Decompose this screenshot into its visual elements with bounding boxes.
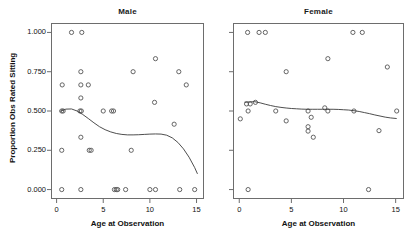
data-point [284, 70, 288, 74]
data-point [238, 117, 242, 121]
data-point [274, 109, 278, 113]
data-point [184, 83, 188, 87]
data-point [326, 57, 330, 61]
data-point [311, 135, 315, 139]
data-point [284, 119, 288, 123]
x-tick-label: 15 [185, 205, 209, 214]
y-tick-label: 0.750 [8, 67, 46, 76]
data-point [306, 129, 310, 133]
data-point [60, 187, 64, 191]
x-tick-label: 15 [384, 205, 408, 214]
data-point [257, 30, 261, 34]
x-axis-title-male: Age at Observation [51, 219, 204, 228]
data-point [246, 187, 250, 191]
data-point [172, 122, 176, 126]
plot-canvas [0, 0, 418, 238]
data-point [385, 65, 389, 69]
data-point [60, 148, 64, 152]
smooth-trend-line [60, 109, 197, 174]
data-point [129, 148, 133, 152]
data-point [153, 57, 157, 61]
chart-figure: Male Female Proportion Obs Rated Sitting… [0, 0, 418, 238]
data-point [366, 187, 370, 191]
data-point [360, 30, 364, 34]
y-tick-label: 0.250 [8, 145, 46, 154]
data-point [80, 30, 84, 34]
data-point [177, 70, 181, 74]
data-point [351, 30, 355, 34]
data-point [395, 109, 399, 113]
x-tick-label: 10 [332, 205, 356, 214]
data-point [69, 30, 73, 34]
x-tick-label: 10 [138, 205, 162, 214]
data-point [309, 115, 313, 119]
x-tick-label: 5 [279, 205, 303, 214]
data-point [152, 100, 156, 104]
data-point [377, 129, 381, 133]
x-axis-title-female: Age at Observation [233, 219, 404, 228]
data-point [86, 83, 90, 87]
data-point [79, 187, 83, 191]
series-female [238, 30, 399, 191]
data-point [246, 109, 250, 113]
data-point [148, 187, 152, 191]
data-point [79, 135, 83, 139]
data-point [263, 30, 267, 34]
data-point [79, 96, 83, 100]
data-point [101, 109, 105, 113]
smooth-trend-line [244, 102, 396, 119]
data-point [79, 70, 83, 74]
data-point [306, 125, 310, 129]
data-point [124, 187, 128, 191]
data-point [193, 187, 197, 191]
y-tick-label: 0.500 [8, 106, 46, 115]
series-male [60, 30, 198, 191]
y-tick-label: 1.000 [8, 27, 46, 36]
x-tick-label: 0 [227, 205, 251, 214]
data-point [79, 83, 83, 87]
data-point [178, 187, 182, 191]
data-point [246, 30, 250, 34]
data-point [131, 70, 135, 74]
y-tick-label: 0.000 [8, 185, 46, 194]
data-point [153, 187, 157, 191]
x-tick-label: 0 [45, 205, 69, 214]
data-point [60, 83, 64, 87]
x-tick-label: 5 [91, 205, 115, 214]
